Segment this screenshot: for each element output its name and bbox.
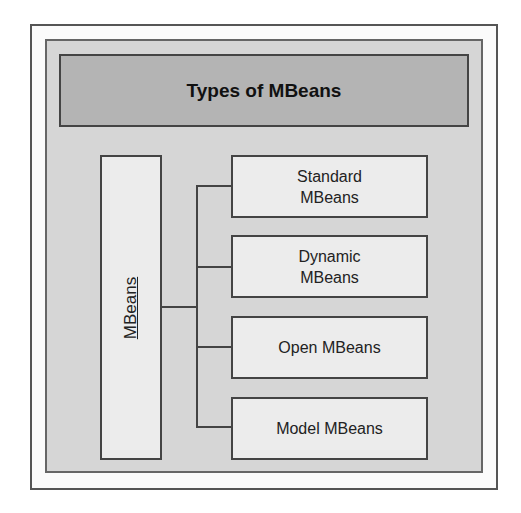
connector-open [196,346,232,348]
node-label: Open MBeans [278,337,380,358]
node-model-mbeans: Model MBeans [231,397,428,460]
node-label: Dynamic MBeans [280,246,380,288]
connector-dynamic [196,266,232,268]
root-node-mbeans: MBeans [100,155,162,460]
connector-model [196,426,232,428]
node-label: Standard MBeans [280,166,380,208]
connector-root [161,306,198,308]
node-open-mbeans: Open MBeans [231,316,428,379]
root-node-label: MBeans [121,276,141,338]
diagram-title: Types of MBeans [187,80,342,102]
connector-trunk [196,185,198,428]
node-dynamic-mbeans: Dynamic MBeans [231,235,428,298]
node-label: Model MBeans [276,418,383,439]
connector-standard [196,185,232,187]
title-box: Types of MBeans [59,54,469,127]
node-standard-mbeans: Standard MBeans [231,155,428,218]
